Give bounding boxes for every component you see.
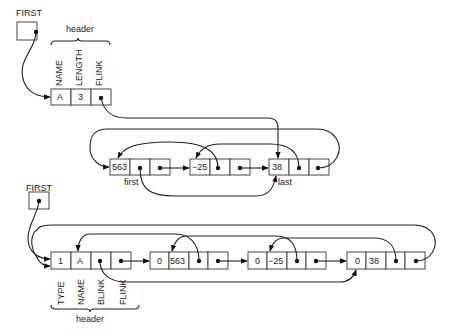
field-label-blink: BLINK <box>96 279 106 305</box>
linked-list-diagram: FIRST header NAME LENGTH FLINK A 3 563 f… <box>0 0 463 336</box>
field-label-name: NAME <box>54 60 64 86</box>
node-1-type: 0 <box>157 256 162 266</box>
header-brace-label: header <box>76 314 104 324</box>
node-1-value: 563 <box>112 162 127 172</box>
header-cell-length-value: 3 <box>78 92 83 102</box>
first-pointer-label: FIRST <box>16 8 43 18</box>
header-flink-arrow <box>101 98 278 158</box>
header-cell-name-value: A <box>57 92 63 102</box>
field-label-type: TYPE <box>56 281 66 305</box>
node-3-value: 38 <box>369 256 379 266</box>
first-pointer-box <box>17 22 37 40</box>
node-1-tag: first <box>124 177 139 187</box>
header-brace <box>51 305 139 312</box>
header-cell-name-value: A <box>77 256 83 266</box>
node-3-tag: last <box>278 177 293 187</box>
field-label-flink: FLINK <box>118 279 128 305</box>
node-2-value: −25 <box>268 256 283 266</box>
node-2-value: −25 <box>192 162 207 172</box>
header-brace-label: header <box>66 24 94 34</box>
first-to-header-arrow <box>22 32 50 97</box>
diagram-1: FIRST header NAME LENGTH FLINK A 3 563 f… <box>16 8 339 196</box>
node-3-value: 38 <box>272 162 282 172</box>
header-cell-type-value: 1 <box>58 256 63 266</box>
first-pointer-label: FIRST <box>26 183 53 193</box>
field-label-length: LENGTH <box>74 49 84 86</box>
first-to-header-arrow <box>28 201 50 259</box>
node-2-type: 0 <box>255 256 260 266</box>
field-label-name: NAME <box>76 279 86 305</box>
header-brace <box>51 38 110 45</box>
node-3-type: 0 <box>355 256 360 266</box>
node-2-blink-cell <box>210 159 230 175</box>
field-label-flink: FLINK <box>94 60 104 86</box>
wrap-to-header-arrow <box>32 229 50 266</box>
node-1-value: 563 <box>170 256 185 266</box>
diagram-2: FIRST 1 A TYPE NAME BLINK FLINK header 0… <box>26 183 435 324</box>
